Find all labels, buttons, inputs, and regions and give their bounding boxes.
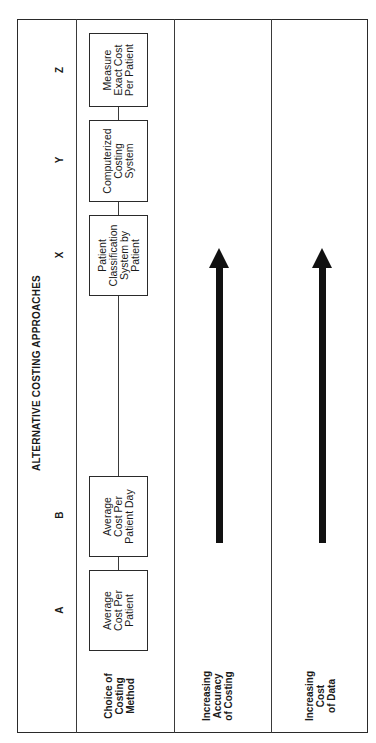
diagram-title: ALTERNATIVE COSTING APPROACHES bbox=[31, 203, 42, 543]
row-label-increasing-cost: Increasing Cost of Data bbox=[304, 665, 337, 727]
method-box-measure-exact-cost: Measure Exact Cost Per Patient bbox=[89, 33, 148, 107]
arrow-head-icon bbox=[209, 248, 229, 268]
arrow-shaft bbox=[319, 266, 326, 543]
connector-b-x bbox=[118, 296, 119, 476]
arrow-head-icon bbox=[312, 248, 332, 268]
row-divider-1 bbox=[76, 19, 77, 733]
method-box-average-cost-per-patient: Average Cost Per Patient bbox=[89, 570, 148, 651]
arrow-shaft bbox=[216, 266, 223, 543]
connector-x-y bbox=[118, 202, 119, 215]
cost-of-data-arrow bbox=[312, 248, 332, 543]
method-box-patient-classification: Patient Classification System by Patient bbox=[89, 215, 148, 296]
approach-letter-b: B bbox=[54, 505, 65, 525]
connector-a-b bbox=[118, 557, 119, 570]
row-divider-3 bbox=[271, 19, 272, 733]
accuracy-arrow bbox=[209, 248, 229, 543]
method-box-computerized-costing: Computerized Costing System bbox=[89, 120, 148, 202]
row-label-increasing-accuracy: Increasing Accuracy of Costing bbox=[201, 665, 234, 727]
rotated-diagram: ALTERNATIVE COSTING APPROACHES A B X Y Z… bbox=[0, 0, 376, 743]
row-divider-2 bbox=[174, 19, 175, 733]
approach-letter-z: Z bbox=[54, 60, 65, 80]
approach-letter-y: Y bbox=[54, 150, 65, 170]
row-label-choice-of-costing-method: Choice of Costing Method bbox=[103, 665, 136, 727]
approach-letter-x: X bbox=[54, 245, 65, 265]
approach-letter-a: A bbox=[54, 600, 65, 620]
connector-y-z bbox=[118, 107, 119, 120]
method-box-average-cost-per-patient-day: Average Cost Per Patient Day bbox=[89, 476, 148, 557]
